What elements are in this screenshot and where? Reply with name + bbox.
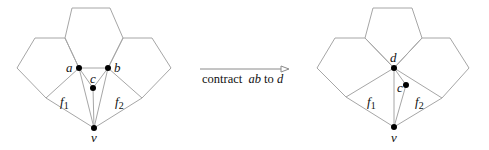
label-f1: f1 xyxy=(60,94,69,111)
label-c: c xyxy=(90,71,96,86)
label-f2: f2 xyxy=(115,94,124,111)
label-c: c xyxy=(397,80,403,95)
contraction-diagram: a b c v f1 f2 contract ab to d xyxy=(0,0,489,150)
graph-after: d c v f1 f2 xyxy=(317,8,469,145)
graph-before: a b c v f1 f2 xyxy=(17,8,171,145)
operation-caption: contract ab to d xyxy=(202,72,284,86)
edge-left-outer-v xyxy=(46,98,94,128)
vertex-b xyxy=(105,65,111,71)
label-b: b xyxy=(114,60,121,75)
vertex-c xyxy=(403,82,409,88)
left-pentagon-face xyxy=(317,38,394,97)
edge-c-v xyxy=(93,88,94,128)
label-v: v xyxy=(391,130,397,145)
label-v: v xyxy=(91,130,97,145)
label-d: d xyxy=(390,50,397,65)
vertex-a xyxy=(76,65,82,71)
vertex-d xyxy=(391,65,397,71)
top-hexagon-face xyxy=(65,8,123,68)
contraction-operation: contract ab to d xyxy=(200,66,289,86)
label-f2: f2 xyxy=(415,94,424,111)
label-a: a xyxy=(66,60,73,75)
label-f1: f1 xyxy=(367,94,376,111)
